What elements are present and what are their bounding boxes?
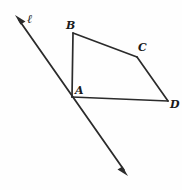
segment-AD <box>72 97 168 101</box>
segment-AB <box>72 33 73 97</box>
segment-BC <box>73 33 137 57</box>
line-l-arrowhead-upper <box>15 15 26 25</box>
vertex-label-d: D <box>170 99 180 110</box>
quadrilateral-abcd <box>72 33 168 101</box>
line-l-arrowhead-lower <box>118 167 129 177</box>
geometry-figure-canvas: B C A D ℓ <box>0 0 182 190</box>
vertex-label-c: C <box>138 42 147 53</box>
vertex-label-b: B <box>66 20 75 31</box>
figure-svg <box>0 0 182 190</box>
segment-CD <box>137 57 168 101</box>
line-label-l: ℓ <box>27 13 32 25</box>
vertex-label-a: A <box>75 85 84 96</box>
